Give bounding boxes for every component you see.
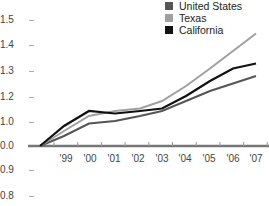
legend-label: California (179, 24, 223, 36)
x-tick-label: '01 (107, 153, 120, 164)
legend-label: United States (179, 0, 242, 12)
legend: United States Texas California (165, 0, 242, 36)
x-tick-label: '00 (83, 153, 96, 164)
x-tick-label: '06 (226, 153, 239, 164)
y-tick (29, 71, 34, 72)
y-tick-label: 1.0 (0, 117, 14, 127)
x-tick-label: '05 (202, 153, 215, 164)
legend-item-united-states: United States (165, 0, 242, 12)
x-tick-label: '07 (249, 153, 262, 164)
line-texas (40, 34, 256, 147)
x-tick-label: '04 (178, 153, 191, 164)
legend-label: Texas (179, 12, 206, 24)
x-tick-label: '02 (131, 153, 144, 164)
x-tick-label: '03 (155, 153, 168, 164)
y-tick-label: 0.0 (0, 141, 14, 151)
y-tick-label: 0.9 (0, 165, 14, 175)
y-tick-label: 1.5 (0, 15, 14, 25)
legend-swatch-icon (165, 26, 173, 34)
y-tick-label: 0.8 (0, 191, 14, 201)
y-tick-label: 1.4 (0, 40, 14, 50)
y-tick (29, 97, 34, 98)
y-tick (29, 196, 34, 197)
y-tick (29, 170, 34, 171)
legend-item-california: California (165, 24, 242, 36)
y-tick (29, 45, 34, 46)
y-tick-label: 1.2 (0, 92, 14, 102)
legend-swatch-icon (165, 14, 173, 22)
y-tick (29, 20, 34, 21)
y-tick (29, 122, 34, 123)
legend-swatch-icon (165, 2, 173, 10)
x-tick-label: '99 (59, 153, 72, 164)
y-tick-label: 1.3 (0, 66, 14, 76)
legend-item-texas: Texas (165, 12, 242, 24)
